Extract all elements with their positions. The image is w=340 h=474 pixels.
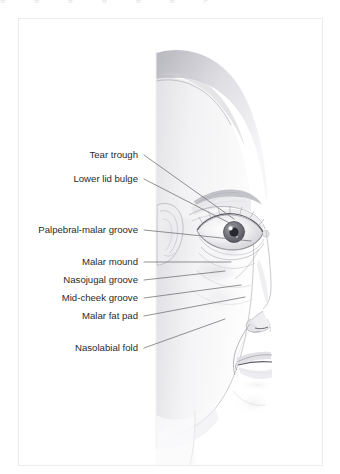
annotation-label-malar-fat-pad[interactable]: Malar fat pad bbox=[82, 310, 138, 322]
clipped-header-fragment: p bbox=[204, 0, 209, 3]
annotation-label-mid-cheek-groove[interactable]: Mid-cheek groove bbox=[62, 292, 138, 304]
annotation-label-nasojugal-groove[interactable]: Nasojugal groove bbox=[63, 274, 138, 286]
midline-split-edge bbox=[19, 19, 156, 466]
clipped-header-fragment: g bbox=[0, 0, 5, 3]
annotation-label-malar-mound[interactable]: Malar mound bbox=[82, 256, 138, 268]
annotation-label-nasolabial-fold[interactable]: Nasolabial fold bbox=[75, 342, 138, 354]
clipped-header-fragment: g bbox=[68, 0, 73, 3]
clipped-header-text: g g g g g g p bbox=[0, 0, 340, 5]
annotation-label-palpebral-malar-groove[interactable]: Palpebral-malar groove bbox=[38, 224, 138, 236]
clipped-header-fragment: g bbox=[170, 0, 175, 3]
figure-panel: Tear trough Lower lid bulge Palpebral-ma… bbox=[18, 18, 323, 466]
annotation-label-lower-lid-bulge[interactable]: Lower lid bulge bbox=[73, 173, 138, 185]
clipped-header-fragment: g bbox=[102, 0, 107, 3]
annotation-label-tear-trough[interactable]: Tear trough bbox=[89, 149, 138, 161]
clipped-header-fragment: g bbox=[34, 0, 39, 3]
clipped-header-fragment: g bbox=[136, 0, 141, 3]
half-face-anatomy-illustration bbox=[19, 19, 323, 466]
mouth bbox=[236, 352, 276, 390]
chin bbox=[231, 390, 275, 416]
